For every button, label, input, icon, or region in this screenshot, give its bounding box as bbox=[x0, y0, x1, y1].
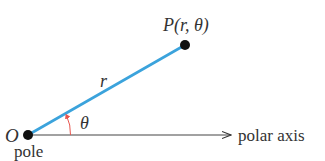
pole-dot bbox=[23, 130, 33, 140]
pole-caption: pole bbox=[14, 142, 43, 161]
radius-label: r bbox=[100, 71, 108, 91]
point-p-dot bbox=[180, 40, 190, 50]
polar-coordinates-diagram: P(r, θ) r θ O pole polar axis bbox=[0, 0, 325, 161]
diagram-canvas: P(r, θ) r θ O pole polar axis bbox=[0, 0, 325, 161]
angle-label: θ bbox=[80, 113, 89, 133]
angle-arc-arrow bbox=[67, 116, 71, 136]
polar-axis-label: polar axis bbox=[238, 126, 305, 145]
point-p-label: P(r, θ) bbox=[162, 15, 209, 36]
